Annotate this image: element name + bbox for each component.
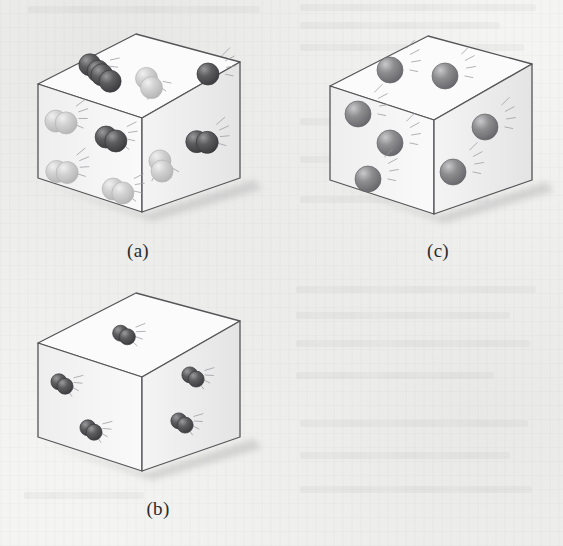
panel-a bbox=[18, 26, 268, 241]
panel-caption-b: (b) bbox=[98, 498, 218, 520]
panel-c bbox=[310, 28, 560, 243]
panel-caption-c: (c) bbox=[378, 240, 498, 262]
cube-a bbox=[18, 26, 268, 241]
cube-b bbox=[18, 285, 268, 500]
cube-c bbox=[310, 28, 560, 243]
panel-b bbox=[18, 285, 268, 500]
panel-caption-a: (a) bbox=[78, 240, 198, 262]
